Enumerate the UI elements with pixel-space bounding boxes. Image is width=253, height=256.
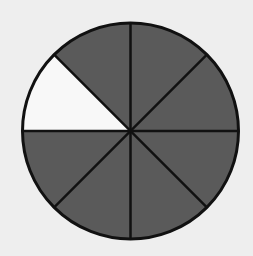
- fraction-circle: [0, 0, 253, 256]
- diagram-canvas: [0, 0, 253, 256]
